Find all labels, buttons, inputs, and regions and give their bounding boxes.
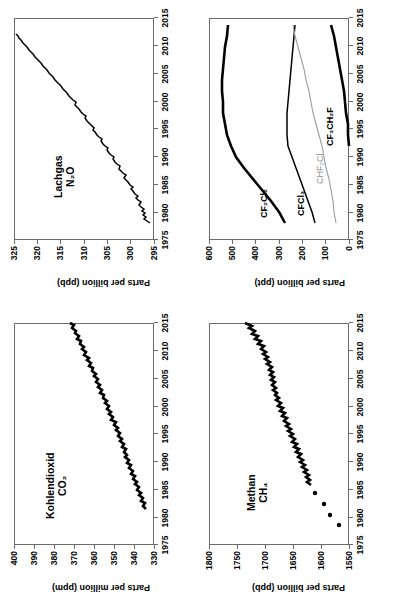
- n2o-xtick-4: 1995: [160, 115, 170, 143]
- ch4-dot-1978: [337, 523, 341, 527]
- co2-xtick-7: 2010: [160, 337, 170, 365]
- ch4-xtick-5: 2000: [355, 393, 365, 421]
- co2-xtick-1: 1980: [160, 504, 170, 532]
- n2o-xtick-3: 1990: [160, 143, 170, 171]
- ch4-dot-1982: [313, 491, 317, 495]
- panel-ch4: Parts per billion (ppb) Methan CH₄ 1800 …: [197, 306, 395, 611]
- ch4-xtick-3: 1990: [355, 448, 365, 476]
- cfc-xtick-4: 1995: [355, 115, 365, 143]
- cfc-ytick-4: 200: [297, 246, 307, 278]
- ch4-ytick-4: 1600: [316, 551, 326, 585]
- cfc-ytick-0: 600: [204, 246, 214, 278]
- cfc-xtick-8: 2015: [355, 4, 365, 32]
- figure-frame: Parts per million (ppm) Kohlendioxid CO₂…: [0, 0, 395, 611]
- co2-line: [70, 323, 146, 509]
- n2o-xtick-8: 2015: [160, 4, 170, 32]
- n2o-ytick-5: 300: [125, 246, 135, 276]
- cfc-ytick-3: 300: [274, 246, 284, 278]
- n2o-xtick-6: 2005: [160, 60, 170, 88]
- co2-xtick-2: 1985: [160, 476, 170, 504]
- cfc-xtick-2: 1985: [355, 171, 365, 199]
- figure-canvas: Parts per million (ppm) Kohlendioxid CO₂…: [0, 0, 395, 611]
- cfc-xtick-6: 2005: [355, 60, 365, 88]
- co2-xtick-4: 1995: [160, 420, 170, 448]
- n2o-ytick-0: 325: [9, 246, 19, 276]
- co2-ytick-0: 400: [9, 551, 19, 581]
- n2o-ytick-4: 305: [102, 246, 112, 276]
- ch4-dot-1981: [322, 502, 326, 506]
- co2-ytick-1: 390: [29, 551, 39, 581]
- panel-co2: Parts per million (ppm) Kohlendioxid CO₂…: [0, 306, 197, 611]
- ch4-xtick-0: 1975: [355, 531, 365, 559]
- panel-n2o: Parts per billion (ppb) Lachgas N₂O 325 …: [0, 0, 197, 306]
- ch4-xtick-4: 1995: [355, 420, 365, 448]
- co2-ytick-2: 380: [49, 551, 59, 581]
- cfc-ytick-5: 100: [320, 246, 330, 278]
- co2-xtick-0: 1975: [160, 531, 170, 559]
- cfc-ytick-2: 400: [250, 246, 260, 278]
- n2o-ytick-6: 295: [149, 246, 159, 276]
- n2o-ytick-1: 320: [32, 246, 42, 276]
- co2-xtick-5: 2000: [160, 393, 170, 421]
- co2-ytick-7: 330: [149, 551, 159, 581]
- cfc-ytick-1: 500: [227, 246, 237, 278]
- co2-ytick-4: 360: [89, 551, 99, 581]
- ch4-ytick-0: 1800: [204, 551, 214, 585]
- ch4-xtick-2: 1985: [355, 476, 365, 504]
- cfc-xtick-1: 1980: [355, 199, 365, 227]
- co2-xtick-6: 2005: [160, 365, 170, 393]
- ch4-ytick-2: 1700: [260, 551, 270, 585]
- cfc-xtick-0: 1975: [355, 226, 365, 254]
- ch4-line: [245, 323, 311, 485]
- cfc-xtick-5: 2000: [355, 88, 365, 116]
- ch4-xtick-8: 2015: [355, 309, 365, 337]
- cfc-xtick-7: 2010: [355, 32, 365, 60]
- ch4-ytick-3: 1650: [288, 551, 298, 585]
- ch4-dot-1980: [328, 513, 332, 517]
- ch4-xtick-1: 1980: [355, 504, 365, 532]
- ch4-xtick-6: 2005: [355, 365, 365, 393]
- co2-ytick-6: 340: [129, 551, 139, 581]
- co2-ytick-5: 350: [109, 551, 119, 581]
- n2o-xtick-7: 2010: [160, 32, 170, 60]
- panel-cfc: Parts per billion (ppt) CF₂Cl₂ CFCl₃ CHF…: [197, 0, 395, 306]
- n2o-xtick-0: 1975: [160, 226, 170, 254]
- cfc-xtick-3: 1990: [355, 143, 365, 171]
- cfc-label-cfcl3: CFCl₃: [296, 191, 306, 216]
- cfc-label-chf2cl: CHF₂Cl: [315, 154, 325, 185]
- cfc-ytick-6: 0: [344, 246, 354, 278]
- n2o-xtick-1: 1980: [160, 199, 170, 227]
- cfc-label-cf3ch2f: CF₃CH₂F: [325, 107, 335, 146]
- ch4-xtick-7: 2010: [355, 337, 365, 365]
- co2-xtick-3: 1990: [160, 448, 170, 476]
- n2o-line: [16, 34, 150, 223]
- n2o-xtick-5: 2000: [160, 88, 170, 116]
- ch4-ytick-1: 1750: [232, 551, 242, 585]
- n2o-ytick-2: 315: [55, 246, 65, 276]
- n2o-xtick-2: 1985: [160, 171, 170, 199]
- co2-ytick-3: 370: [69, 551, 79, 581]
- cfc-line-cf2cl2: [222, 25, 285, 223]
- cfc-label-cf2cl2: CF₂Cl₂: [259, 189, 269, 218]
- ch4-ytick-5: 1550: [344, 551, 354, 585]
- co2-xtick-8: 2015: [160, 309, 170, 337]
- n2o-ytick-3: 310: [79, 246, 89, 276]
